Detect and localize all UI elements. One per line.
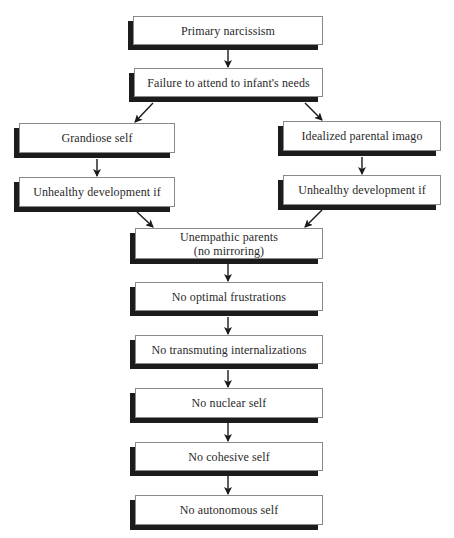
node-label-line2: (no mirroring) (194, 244, 264, 258)
node-no-optimal-frustrations: No optimal frustrations (135, 282, 323, 311)
node-label: No optimal frustrations (172, 290, 286, 304)
node-no-autonomous-self: No autonomous self (135, 495, 323, 525)
node-label: No autonomous self (180, 503, 278, 517)
node-label-line1: Unempathic parents (180, 230, 278, 244)
node-no-transmuting-internalizations: No transmuting internalizations (135, 335, 323, 364)
node-no-nuclear-self: No nuclear self (135, 388, 323, 418)
arrow-unhealthy-left-to-unempathic (137, 212, 153, 227)
node-primary-narcissism: Primary narcissism (133, 16, 323, 45)
node-label: Failure to attend to infant's needs (147, 76, 310, 90)
node-label: Primary narcissism (181, 24, 275, 38)
node-unhealthy-development-left: Unhealthy development if (19, 177, 175, 207)
node-label: No transmuting internalizations (151, 343, 306, 357)
node-unhealthy-development-right: Unhealthy development if (283, 175, 441, 205)
arrow-unhealthy-right-to-unempathic (305, 210, 322, 227)
node-failure-to-attend: Failure to attend to infant's needs (134, 68, 323, 97)
node-label: Grandiose self (61, 131, 132, 145)
node-label: Unhealthy development if (33, 185, 161, 199)
node-idealized-parental-imago: Idealized parental imago (283, 121, 441, 151)
node-label: No cohesive self (188, 450, 270, 464)
arrow-failure-to-grandiose (135, 103, 153, 122)
node-label: No nuclear self (192, 396, 267, 410)
narcissism-flowchart: Primary narcissism Failure to attend to … (0, 0, 454, 538)
node-no-cohesive-self: No cohesive self (135, 442, 323, 471)
node-unempathic-parents: Unempathic parents (no mirroring) (135, 228, 323, 259)
node-label: Idealized parental imago (301, 129, 422, 143)
node-label: Unhealthy development if (298, 183, 426, 197)
arrow-failure-to-idealized (305, 103, 322, 120)
node-grandiose-self: Grandiose self (19, 123, 175, 153)
